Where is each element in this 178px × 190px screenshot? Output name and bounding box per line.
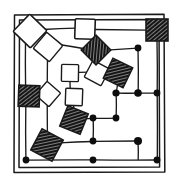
junction-dot-d7[interactable] bbox=[134, 137, 142, 145]
hatched-square-h4[interactable] bbox=[18, 85, 40, 107]
white-square-w3[interactable] bbox=[75, 19, 96, 40]
junction-dot-d3[interactable] bbox=[134, 89, 142, 97]
diagram-canvas bbox=[0, 0, 178, 190]
white-square-w7[interactable] bbox=[65, 88, 83, 106]
white-square-w4[interactable] bbox=[61, 64, 78, 81]
junction-dot-d4[interactable] bbox=[112, 89, 119, 96]
junction-dot-d1[interactable] bbox=[135, 45, 142, 52]
hand-drawn-graph-svg bbox=[0, 0, 178, 190]
hatched-square-h1[interactable] bbox=[146, 19, 168, 41]
junction-dot-d8[interactable] bbox=[90, 138, 97, 145]
junction-dot-d10[interactable] bbox=[90, 157, 97, 164]
junction-dot-d11[interactable] bbox=[23, 157, 30, 164]
junction-dot-d6[interactable] bbox=[90, 115, 97, 122]
edge-w3-h1 bbox=[96, 30, 147, 31]
junction-dot-d2[interactable] bbox=[154, 90, 161, 97]
junction-dot-d5[interactable] bbox=[113, 115, 120, 122]
junction-dot-d9[interactable] bbox=[154, 157, 161, 164]
